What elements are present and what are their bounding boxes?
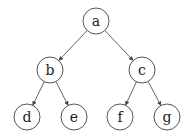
node-c: c — [129, 57, 155, 83]
node-label: d — [23, 109, 32, 125]
node-a: a — [83, 8, 109, 34]
node-label: a — [92, 13, 100, 29]
node-label: b — [46, 62, 55, 78]
edge-a-c — [105, 30, 133, 60]
edge-a-b — [59, 30, 87, 60]
node-label: g — [163, 109, 172, 125]
tree-diagram: a b c d e f g — [0, 0, 190, 139]
node-label: c — [138, 62, 146, 78]
node-d: d — [14, 104, 40, 130]
nodes: a b c d e f g — [14, 8, 180, 130]
node-label: e — [70, 109, 78, 125]
node-g: g — [154, 104, 180, 130]
edge-c-f — [126, 82, 137, 105]
node-f: f — [107, 104, 133, 130]
edge-c-g — [148, 81, 161, 105]
node-e: e — [61, 104, 87, 130]
node-b: b — [37, 57, 63, 83]
edge-b-e — [56, 82, 68, 106]
edge-b-d — [33, 82, 45, 106]
